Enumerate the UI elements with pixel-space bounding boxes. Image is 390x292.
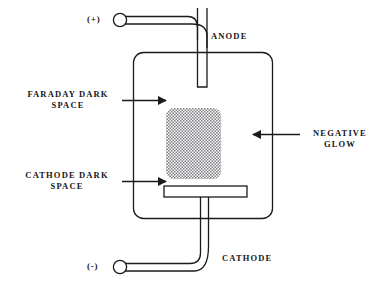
faraday-dark-space-label-line2: SPACE [16, 100, 120, 111]
cathode-dark-space-label-line2: SPACE [14, 181, 120, 192]
positive-terminal-label: (+) [87, 14, 101, 24]
cathode-dark-space-label-line1: CATHODE DARK [14, 170, 120, 181]
cathode-lead-wire-inner [124, 246, 209, 271]
cathode-lead-wire-outer [124, 253, 201, 264]
negative-terminal-label: (-) [87, 261, 98, 271]
cathode-label: CATHODE [222, 253, 272, 264]
negative-glow-region [166, 108, 221, 179]
positive-terminal-ring [113, 13, 126, 26]
cathode-plate [164, 186, 247, 197]
anode-label: ANODE [211, 31, 247, 42]
negative-terminal-ring [113, 260, 126, 273]
anode-lead-wire-outer [124, 17, 198, 41]
glow-discharge-diagram: (+) (-) ANODE CATHODE FARADAY DARK SPACE… [0, 0, 390, 292]
negative-glow-label-line1: NEGATIVE [304, 128, 376, 139]
faraday-dark-space-label-line1: FARADAY DARK [16, 89, 120, 100]
negative-glow-label-line2: GLOW [304, 139, 376, 150]
anode-electrode [198, 8, 208, 87]
anode-lead-wire-inner [124, 24, 207, 48]
